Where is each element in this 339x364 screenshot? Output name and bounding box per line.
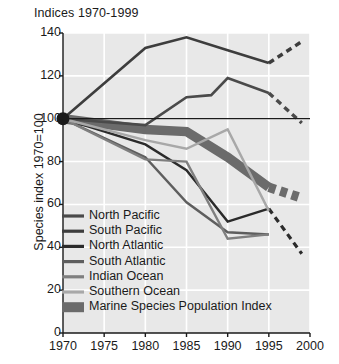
- y-tick-label: 0: [54, 325, 61, 339]
- x-tick-label: 1995: [248, 339, 290, 353]
- legend-swatch-marine-species-population-index: [62, 302, 84, 312]
- y-tick-label: 40: [47, 239, 61, 253]
- x-tick-label: 1970: [42, 339, 84, 353]
- legend-label-south-atlantic: South Atlantic: [89, 254, 165, 268]
- y-tick-label: 140: [40, 25, 61, 39]
- y-tick-label: 60: [47, 196, 61, 210]
- y-tick-label: 120: [40, 68, 61, 82]
- y-tick-label: 80: [47, 154, 61, 168]
- chart-figure: Indices 1970-1999 Species index 1970=100…: [0, 0, 339, 364]
- legend-label-southern-ocean: Southern Ocean: [89, 284, 180, 298]
- x-tick-label: 2000: [289, 339, 331, 353]
- legend-label-north-atlantic: North Atlantic: [89, 238, 163, 252]
- x-tick-label: 1980: [124, 339, 166, 353]
- y-tick-label: 100: [40, 111, 61, 125]
- x-tick-label: 1990: [207, 339, 249, 353]
- legend-label-north-pacific: North Pacific: [89, 208, 160, 222]
- x-tick-label: 1975: [83, 339, 125, 353]
- legend-label-marine-species-population-index: Marine Species Population Index: [89, 299, 272, 313]
- y-tick-label: 20: [47, 282, 61, 296]
- legend-label-indian-ocean: Indian Ocean: [89, 269, 163, 283]
- legend-label-south-pacific: South Pacific: [89, 223, 162, 237]
- x-tick-label: 1985: [166, 339, 208, 353]
